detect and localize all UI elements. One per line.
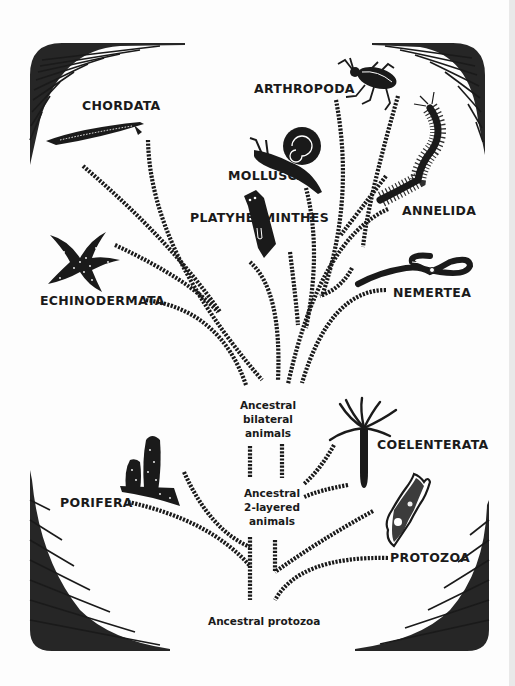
lancelet-icon [46, 122, 144, 145]
node-line: Ancestral [236, 398, 300, 412]
label-porifera: PORIFERA [60, 497, 133, 510]
node-ancestral-protozoa: Ancestral protozoa [208, 614, 318, 628]
node-line: Ancestral protozoa [208, 614, 318, 628]
tree-artwork: .br { fill: none; stroke: #1a1a1a; strok… [0, 0, 515, 686]
corner-ornament-bottom-right [355, 500, 489, 651]
starfish-icon [48, 232, 120, 292]
node-line: animals [240, 514, 304, 528]
node-ancestral-bilateral: Ancestral bilateral animals [236, 398, 300, 440]
branches-bilateral [83, 96, 398, 385]
label-protozoa: PROTOZOA [390, 552, 470, 565]
node-line: bilateral [236, 412, 300, 426]
amoeba-icon [387, 474, 430, 546]
label-coelenterata: COELENTERATA [377, 439, 489, 452]
node-line: animals [236, 426, 300, 440]
snail-icon [250, 127, 322, 194]
label-echinodermata: ECHINODERMATA [40, 295, 165, 308]
label-nemertea: NEMERTEA [393, 287, 471, 300]
node-ancestral-2-layered: Ancestral 2-layered animals [240, 486, 304, 528]
bristleworm-icon [380, 92, 438, 200]
ribbonworm-icon [358, 256, 470, 284]
node-line: 2-layered [240, 500, 304, 514]
label-chordata: CHORDATA [82, 100, 161, 113]
node-line: Ancestral [240, 486, 304, 500]
diagram-canvas: .br { fill: none; stroke: #1a1a1a; strok… [0, 0, 515, 686]
label-platyhelminthes: PLATYHELMINTHES [190, 212, 329, 225]
label-mollusca: MOLLUSCA [228, 170, 307, 183]
label-annelida: ANNELIDA [402, 205, 476, 218]
label-arthropoda: ARTHROPODA [254, 83, 355, 96]
